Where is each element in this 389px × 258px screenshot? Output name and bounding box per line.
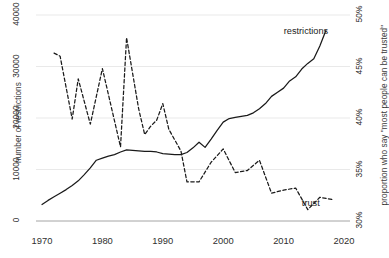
series-label-trust: trust	[302, 198, 320, 208]
x-axis-tick-label: 1980	[82, 235, 122, 246]
y-axis-right-tick-label: 35%	[354, 152, 364, 186]
x-axis-tick-label: 1990	[143, 235, 183, 246]
y-axis-left-tick-label: 40000	[11, 0, 21, 34]
y-axis-right-tick-label: 40%	[354, 100, 364, 134]
x-axis-tick-label: 2020	[324, 235, 364, 246]
y-axis-left-tick-label: 10000	[11, 149, 21, 189]
y-axis-left-tick-label: 30000	[11, 46, 21, 86]
y-axis-left-tick-label: 20000	[11, 97, 21, 137]
x-axis-tick-label: 2000	[203, 235, 243, 246]
series-line-restrictions	[42, 30, 326, 204]
y-axis-right-tick-label: 50%	[354, 0, 364, 31]
series-label-restrictions: restrictions	[284, 26, 328, 36]
y-axis-right-tick-label: 45%	[354, 49, 364, 83]
series-line-trust	[54, 38, 332, 210]
y-axis-right-title: proportion who say "most people can be t…	[380, 36, 389, 206]
y-axis-right-tick-label: 30%	[354, 203, 364, 237]
x-axis-tick-label: 1970	[22, 235, 62, 246]
y-axis-left-tick-label: 0	[11, 200, 21, 240]
x-axis-tick-label: 2010	[264, 235, 304, 246]
